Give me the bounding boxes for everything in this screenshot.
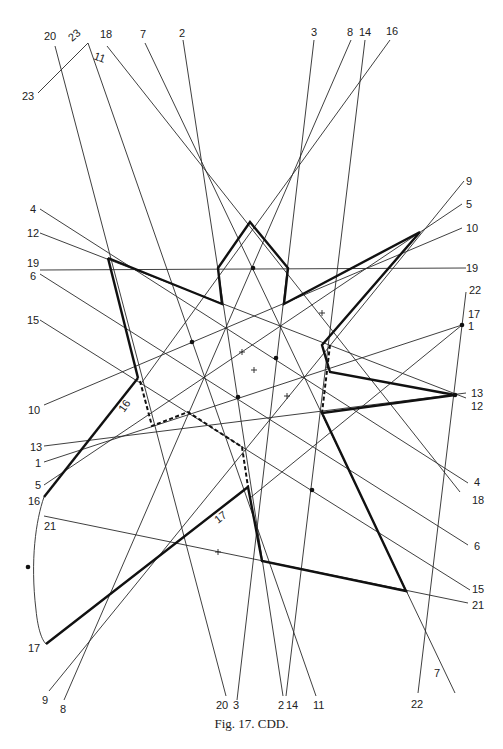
dot-marker bbox=[251, 266, 256, 271]
line-label: 3 bbox=[233, 699, 239, 711]
line-label: 15 bbox=[472, 583, 484, 595]
star-polygon-outline bbox=[44, 222, 455, 644]
line-label: 21 bbox=[44, 520, 56, 532]
line-label: 8 bbox=[60, 703, 66, 715]
line-label: 19 bbox=[466, 262, 478, 274]
line-label: 4 bbox=[30, 203, 36, 215]
cdd-geometric-diagram: 2023112318723814169451210191962217115101… bbox=[0, 0, 503, 749]
line-22 bbox=[418, 292, 466, 693]
dot-marker bbox=[310, 488, 315, 493]
line-label: 20 bbox=[44, 30, 56, 42]
line-5 bbox=[44, 204, 462, 485]
line-2 bbox=[183, 40, 283, 696]
line-label: 11 bbox=[313, 699, 324, 711]
line-label: 21 bbox=[472, 599, 484, 611]
line-label: 9 bbox=[42, 694, 48, 706]
segment-label: 16 bbox=[116, 397, 133, 414]
line-label: 1 bbox=[468, 320, 474, 332]
line-8 bbox=[64, 40, 351, 700]
line-label: 17 bbox=[468, 308, 480, 320]
line-17b bbox=[250, 325, 462, 498]
line-label: 7 bbox=[434, 667, 440, 679]
line-label: 3 bbox=[311, 26, 317, 38]
line-label: 23 bbox=[66, 26, 83, 43]
line-11 bbox=[88, 43, 316, 696]
dashed-paths bbox=[140, 345, 330, 487]
line-label: 8 bbox=[347, 26, 353, 38]
line-3 bbox=[237, 40, 314, 700]
intersection-dots bbox=[26, 266, 465, 570]
line-label: 16 bbox=[386, 25, 398, 37]
line-label: 6 bbox=[474, 540, 480, 552]
line-7 bbox=[145, 43, 455, 693]
line-label: 17 bbox=[28, 642, 40, 654]
line-label: 13 bbox=[471, 387, 483, 399]
line-label: 22 bbox=[469, 284, 481, 296]
line-label: 6 bbox=[30, 270, 36, 282]
line-label: 19 bbox=[27, 257, 39, 269]
line-label: 7 bbox=[140, 28, 146, 40]
line-label: 5 bbox=[35, 479, 41, 491]
line-label: 10 bbox=[28, 404, 40, 416]
figure-caption: Fig. 17. CDD. bbox=[0, 716, 503, 732]
line-label: 1 bbox=[35, 457, 41, 469]
line-label: 10 bbox=[466, 222, 478, 234]
line-label: 22 bbox=[411, 698, 423, 710]
line-label: 12 bbox=[27, 227, 39, 239]
line-label: 14 bbox=[286, 699, 298, 711]
line-label: 9 bbox=[466, 175, 472, 187]
dot-marker bbox=[460, 323, 465, 328]
line-label: 14 bbox=[359, 26, 371, 38]
line-label: 23 bbox=[22, 90, 34, 102]
dot-marker bbox=[26, 565, 31, 570]
dot-marker bbox=[274, 356, 279, 361]
line-label: 18 bbox=[100, 28, 112, 40]
dot-marker bbox=[453, 393, 458, 398]
line-label: 2 bbox=[278, 699, 284, 711]
line-14 bbox=[286, 40, 365, 696]
thick-star-left bbox=[108, 258, 138, 378]
segment-label: 17 bbox=[212, 509, 229, 526]
line-label: 2 bbox=[179, 27, 185, 39]
line-label: 20 bbox=[216, 699, 228, 711]
line-23 bbox=[38, 43, 88, 93]
line-label: 5 bbox=[466, 198, 472, 210]
line-label: 16 bbox=[28, 495, 40, 507]
line-label: 13 bbox=[30, 441, 42, 453]
line-20 bbox=[55, 46, 226, 696]
line-label: 18 bbox=[472, 494, 484, 506]
dot-marker bbox=[190, 340, 195, 345]
line-label: 4 bbox=[474, 476, 480, 488]
line-label: 15 bbox=[27, 314, 39, 326]
thick-edge-16 bbox=[44, 378, 138, 497]
tick-marks bbox=[215, 310, 325, 555]
line-16 bbox=[140, 40, 390, 385]
line-label: 12 bbox=[471, 400, 483, 412]
dash-left bbox=[140, 381, 248, 487]
dot-marker bbox=[236, 395, 241, 400]
